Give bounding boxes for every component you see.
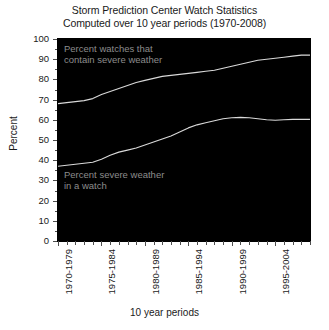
series-line-severe-in-watch	[58, 117, 310, 166]
x-tick-mark	[136, 241, 137, 245]
y-tick-label: 100	[19, 34, 49, 44]
plot-border-left	[57, 38, 58, 242]
x-tick-mark	[310, 241, 311, 245]
x-tick-mark	[240, 241, 241, 245]
plot-border-bottom	[57, 241, 311, 242]
x-tick-mark	[128, 241, 129, 245]
chart-figure: Storm Prediction Center Watch Statistics…	[0, 0, 329, 330]
x-tick-mark	[293, 241, 294, 245]
x-tick-mark	[249, 241, 250, 245]
x-tick-mark	[119, 241, 120, 245]
y-tick-label: 90	[19, 54, 49, 64]
x-tick-mark	[214, 241, 215, 245]
chart-title-line-2: Computed over 10 year periods (1970-2008…	[0, 17, 329, 30]
x-tick-mark	[232, 241, 233, 246]
x-axis-label: 10 year periods	[0, 307, 329, 318]
x-tick-label: 1995-2004	[280, 249, 291, 294]
y-tick-label: 10	[19, 216, 49, 226]
chart-title-line-1: Storm Prediction Center Watch Statistics	[0, 4, 329, 17]
x-tick-label: 1970-1979	[63, 249, 74, 294]
y-tick-label: 50	[19, 135, 49, 145]
y-axis-label: Percent	[8, 99, 19, 169]
x-tick-mark	[171, 241, 172, 245]
x-tick-mark	[197, 241, 198, 245]
x-tick-mark	[110, 241, 111, 245]
x-tick-mark	[180, 241, 181, 245]
x-tick-mark	[101, 241, 102, 246]
y-tick-label: 30	[19, 175, 49, 185]
x-tick-label: 1980-1989	[150, 249, 161, 294]
x-tick-mark	[75, 241, 76, 245]
plot-border-top	[57, 38, 311, 39]
y-tick-label: 60	[19, 115, 49, 125]
x-tick-mark	[93, 241, 94, 245]
x-tick-mark	[58, 241, 59, 246]
x-tick-mark	[284, 241, 285, 245]
chart-title: Storm Prediction Center Watch Statistics…	[0, 4, 329, 30]
y-tick-label: 0	[19, 236, 49, 246]
x-tick-mark	[275, 241, 276, 246]
y-tick-label: 70	[19, 95, 49, 105]
x-tick-label: 1975-1984	[106, 249, 117, 294]
series-line-watches-contain-severe	[58, 55, 310, 103]
x-tick-mark	[301, 241, 302, 245]
x-tick-mark	[188, 241, 189, 246]
x-tick-label: 1990-1999	[237, 249, 248, 294]
x-tick-label: 1985-1994	[193, 249, 204, 294]
x-tick-mark	[267, 241, 268, 245]
x-tick-mark	[162, 241, 163, 245]
x-tick-mark	[145, 241, 146, 246]
x-tick-mark	[84, 241, 85, 245]
x-tick-mark	[67, 241, 68, 245]
x-tick-mark	[258, 241, 259, 245]
y-tick-label: 20	[19, 196, 49, 206]
y-tick-label: 40	[19, 155, 49, 165]
plot-lines	[58, 39, 310, 241]
x-tick-mark	[206, 241, 207, 245]
x-tick-mark	[154, 241, 155, 245]
x-tick-mark	[223, 241, 224, 245]
plot-area: Percent watches that contain severe weat…	[58, 39, 310, 241]
plot-border-right	[310, 38, 311, 242]
y-tick-label: 80	[19, 74, 49, 84]
